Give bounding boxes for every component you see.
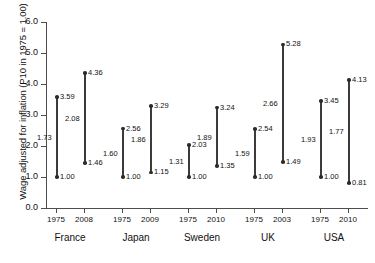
y-tick-mark [41,146,46,147]
ratio-label: 1.59 [235,149,250,158]
ratio-label: 1.86 [131,135,146,144]
ratio-label: 2.66 [263,99,278,108]
value-segment [84,73,86,163]
y-tick-label: 3.0 [8,109,38,119]
x-tick-year-label: 2009 [130,215,170,224]
x-tick-mark [320,209,321,213]
data-point-label: 1.35 [220,161,235,170]
data-point-marker [121,127,125,131]
value-segment [56,97,58,177]
x-tick-year-label: 2010 [328,215,368,224]
data-point-marker [215,106,219,110]
x-tick-mark [348,209,349,213]
data-point-marker [253,175,257,179]
data-point-label: 2.54 [258,124,273,133]
value-segment [150,106,152,172]
y-tick-mark [41,22,46,23]
x-axis-group-label: USA [289,232,375,243]
data-point-marker [83,161,87,165]
y-tick-mark [41,208,46,209]
ratio-label: 1.77 [329,127,344,136]
data-point-marker [253,127,257,131]
data-point-marker [55,95,59,99]
y-tick-label: 0.0 [8,202,38,212]
x-tick-mark [254,209,255,213]
value-segment [348,80,350,183]
value-segment [122,129,124,177]
data-point-marker [347,78,351,82]
x-tick-mark [188,209,189,213]
x-tick-mark [84,209,85,213]
data-point-label: 1.00 [60,172,75,181]
x-tick-mark [122,209,123,213]
value-segment [320,101,322,177]
value-segment [254,129,256,177]
data-point-marker [215,164,219,168]
data-point-marker [55,175,59,179]
x-tick-mark [216,209,217,213]
data-point-marker [149,171,153,175]
data-point-label: 1.15 [154,167,169,176]
data-point-marker [83,71,87,75]
x-tick-year-label: 2008 [64,215,104,224]
ratio-label: 1.89 [197,133,212,142]
x-tick-mark [150,209,151,213]
data-point-label: 1.00 [258,172,273,181]
ratio-label: 1.60 [103,149,118,158]
data-point-label: 4.36 [88,68,103,77]
y-tick-label: 6.0 [8,16,38,26]
x-tick-mark [56,209,57,213]
data-point-label: 1.46 [88,158,103,167]
data-point-marker [187,175,191,179]
ratio-label: 2.08 [65,114,80,123]
data-point-label: 3.24 [220,103,235,112]
value-segment [282,44,284,161]
y-tick-mark [41,53,46,54]
y-tick-label: 1.0 [8,171,38,181]
y-tick-mark [41,177,46,178]
data-point-label: 1.49 [286,157,301,166]
y-tick-label: 4.0 [8,78,38,88]
data-point-marker [281,160,285,164]
data-point-marker [319,175,323,179]
x-tick-year-label: 2003 [262,215,302,224]
value-segment [188,145,190,177]
value-segment [216,108,218,167]
ratio-label: 1.73 [37,133,52,142]
data-point-label: 0.81 [352,178,367,187]
ratio-label: 1.93 [301,135,316,144]
data-point-marker [187,143,191,147]
x-tick-year-label: 2010 [196,215,236,224]
y-tick-label: 2.0 [8,140,38,150]
y-tick-label: 5.0 [8,47,38,57]
data-point-marker [319,99,323,103]
y-tick-mark [41,115,46,116]
data-point-label: 5.28 [286,39,301,48]
data-point-label: 1.00 [126,172,141,181]
data-point-label: 4.13 [352,75,367,84]
data-point-label: 2.56 [126,124,141,133]
data-point-label: 3.59 [60,92,75,101]
ratio-label: 1.31 [169,157,184,166]
data-point-marker [149,104,153,108]
y-axis-line [46,22,47,209]
x-tick-mark [282,209,283,213]
data-point-label: 1.00 [192,172,207,181]
data-point-marker [121,175,125,179]
data-point-marker [347,181,351,185]
wage-inflation-chart: Wage adjusted for inflation (P10 in 1975… [0,0,375,263]
data-point-marker [281,43,285,47]
data-point-label: 3.45 [324,96,339,105]
y-tick-mark [41,84,46,85]
data-point-label: 1.00 [324,172,339,181]
data-point-label: 3.29 [154,101,169,110]
